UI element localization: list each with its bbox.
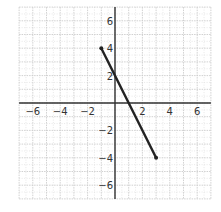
y-tick-label: −4: [98, 153, 113, 164]
endpoint-dot: [154, 156, 158, 160]
endpoint-dot: [99, 46, 103, 50]
axes: [19, 7, 211, 199]
x-tick-label: 4: [167, 106, 173, 117]
y-tick-label: 6: [107, 16, 113, 27]
coordinate-plane: −6−4−2246 −6−4−2246: [0, 0, 221, 212]
x-tick-label: −6: [25, 106, 40, 117]
x-tick-label: −2: [80, 106, 95, 117]
x-tick-label: 6: [194, 106, 200, 117]
x-tick-label: −4: [53, 106, 68, 117]
y-tick-label: 4: [107, 43, 113, 54]
y-tick-label: −6: [98, 180, 113, 191]
y-tick-label: −2: [98, 125, 113, 136]
x-tick-label: 2: [139, 106, 145, 117]
x-tick-labels: −6−4−2246: [25, 106, 200, 117]
